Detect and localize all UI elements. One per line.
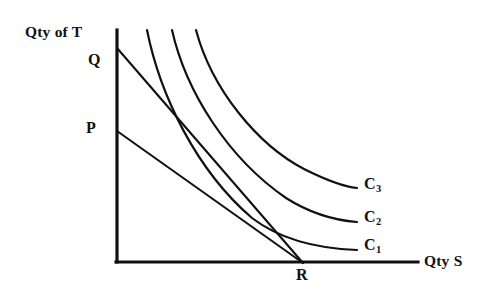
curve-label-c1: C1 bbox=[364, 237, 381, 253]
point-label-p: P bbox=[86, 120, 96, 136]
diagram-canvas bbox=[0, 0, 492, 298]
point-label-r: R bbox=[296, 267, 308, 283]
curve-label-c3-subscript: 3 bbox=[376, 183, 381, 194]
indifference-curve-c2 bbox=[172, 30, 357, 222]
curve-label-c3-base: C bbox=[364, 175, 376, 192]
curve-label-c3: C3 bbox=[364, 176, 381, 192]
curve-label-c2: C2 bbox=[364, 209, 381, 225]
curve-label-c1-base: C bbox=[364, 236, 376, 253]
budget-line-q-r bbox=[117, 48, 303, 263]
indifference-curve-c3 bbox=[196, 30, 357, 188]
x-axis-title: Qty S bbox=[424, 253, 462, 269]
curve-label-c2-subscript: 2 bbox=[376, 216, 381, 227]
curve-label-c1-subscript: 1 bbox=[376, 244, 381, 255]
curve-label-c2-base: C bbox=[364, 208, 376, 225]
y-axis-title: Qty of T bbox=[25, 24, 82, 40]
indifference-curve-diagram: Qty of T Qty S Q P R C3 C2 C1 bbox=[0, 0, 492, 298]
point-label-q: Q bbox=[88, 52, 100, 68]
